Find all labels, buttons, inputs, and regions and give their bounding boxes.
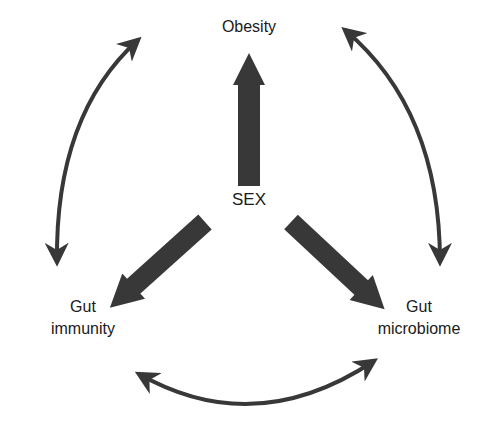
diagram-canvas (0, 0, 498, 433)
node-gut-microbiome-label: Gut microbiome (364, 296, 474, 340)
gut-immunity-line1: Gut (38, 296, 128, 318)
arrow-sex-to-obesity (233, 53, 265, 186)
node-obesity-label: Obesity (209, 16, 289, 38)
arrow-obesity-gut-microbiome (345, 30, 440, 262)
gut-immunity-line2: immunity (38, 318, 128, 340)
gut-microbiome-line1: Gut (364, 296, 474, 318)
node-gut-immunity-label: Gut immunity (38, 296, 128, 340)
center-sex-label: SEX (219, 189, 279, 211)
arrow-obesity-gut-immunity (57, 40, 138, 262)
arrow-gut-immunity-gut-microbiome (139, 361, 374, 404)
gut-microbiome-line2: microbiome (364, 318, 474, 340)
